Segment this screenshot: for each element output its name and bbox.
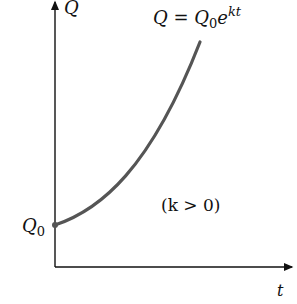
y-intercept-point [52, 222, 58, 228]
y-axis-label: Q [64, 0, 79, 18]
exponential-growth-chart: Q t Q = Q0ekt (k > 0) Q0 [0, 0, 297, 304]
x-axis-label: t [277, 281, 284, 300]
y-intercept-label: Q0 [22, 215, 45, 239]
equation-label: Q = Q0ekt [153, 4, 242, 31]
condition-label: (k > 0) [161, 195, 220, 215]
